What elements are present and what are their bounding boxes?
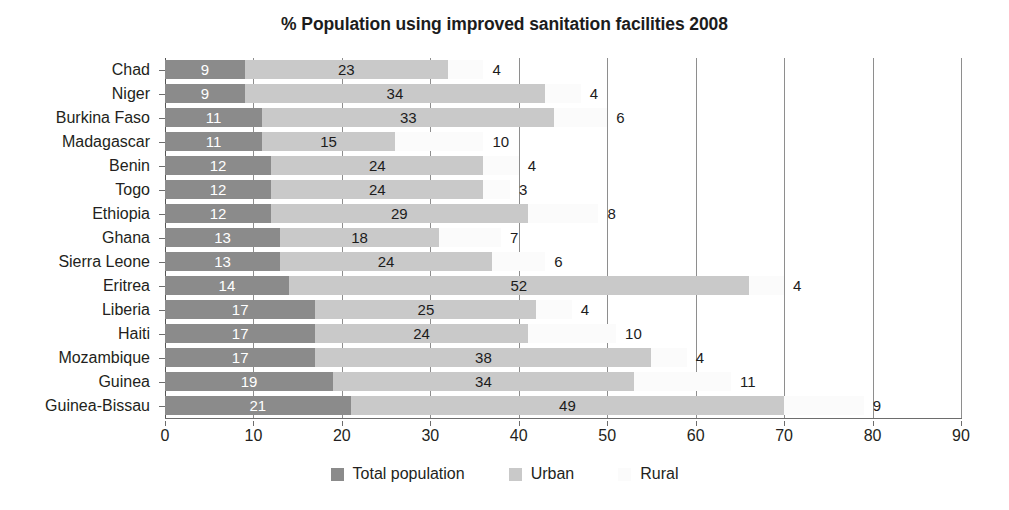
bar-segment-rural: [545, 84, 580, 103]
bar-segment-rural: [492, 252, 545, 271]
y-axis-label-eritrea: Eritrea: [103, 274, 150, 298]
gridline-90: [961, 58, 962, 418]
bar-row: 9234: [165, 58, 961, 82]
value-label-total-population: 13: [214, 252, 231, 271]
y-axis-label-ghana: Ghana: [102, 226, 150, 250]
legend-label: Total population: [353, 465, 465, 483]
value-label-urban: 34: [387, 84, 404, 103]
value-label-rural: 10: [625, 324, 642, 343]
bar-segment-rural: [536, 300, 571, 319]
x-axis-tick-90: [961, 421, 962, 426]
y-axis-label-chad: Chad: [112, 58, 150, 82]
y-axis-label-guinea-bissau: Guinea-Bissau: [45, 394, 150, 418]
bar-segment-rural: [528, 324, 616, 343]
value-label-total-population: 19: [241, 372, 258, 391]
value-label-rural: 9: [873, 396, 881, 415]
value-label-urban: 29: [391, 204, 408, 223]
value-label-total-population: 9: [201, 60, 209, 79]
value-label-rural: 11: [740, 372, 756, 391]
bar-row: 172410: [165, 322, 961, 346]
x-axis-labels: 0102030405060708090: [0, 421, 1009, 449]
bar-segment-rural: [395, 132, 483, 151]
y-axis-label-ethiopia: Ethiopia: [92, 202, 150, 226]
x-axis-label-50: 50: [577, 427, 637, 445]
value-label-total-population: 14: [219, 276, 236, 295]
value-label-urban: 33: [400, 108, 417, 127]
chart-title: % Population using improved sanitation f…: [0, 14, 1009, 35]
y-axis-label-benin: Benin: [109, 154, 150, 178]
value-label-urban: 25: [418, 300, 435, 319]
y-axis-label-togo: Togo: [115, 178, 150, 202]
value-label-total-population: 13: [214, 228, 231, 247]
legend-item: Total population: [331, 465, 465, 483]
value-label-total-population: 9: [201, 84, 209, 103]
x-axis-line: [165, 418, 962, 419]
legend-swatch-icon: [509, 468, 522, 481]
legend-label: Rural: [640, 465, 678, 483]
value-label-urban: 24: [378, 252, 395, 271]
bar-row: 12243: [165, 178, 961, 202]
value-label-urban: 23: [338, 60, 355, 79]
x-axis-tick-60: [696, 421, 697, 426]
value-label-total-population: 17: [232, 300, 249, 319]
bar-row: 17384: [165, 346, 961, 370]
value-label-rural: 7: [510, 228, 518, 247]
value-label-total-population: 11: [206, 108, 222, 127]
legend-swatch-icon: [331, 468, 344, 481]
value-label-rural: 4: [590, 84, 598, 103]
x-axis-tick-0: [165, 421, 166, 426]
value-label-rural: 3: [519, 180, 527, 199]
x-axis-label-70: 70: [754, 427, 814, 445]
value-label-urban: 24: [369, 156, 386, 175]
y-axis-label-madagascar: Madagascar: [62, 130, 150, 154]
bar-segment-rural: [448, 60, 483, 79]
bar-segment-rural: [634, 372, 731, 391]
y-axis-label-mozambique: Mozambique: [58, 346, 150, 370]
value-label-total-population: 12: [210, 204, 227, 223]
chart-legend: Total populationUrbanRural: [0, 461, 1009, 487]
x-axis-label-80: 80: [843, 427, 903, 445]
bar-segment-rural: [749, 276, 784, 295]
value-label-total-population: 12: [210, 156, 227, 175]
value-label-total-population: 17: [232, 348, 249, 367]
value-label-rural: 6: [554, 252, 562, 271]
bar-segment-rural: [651, 348, 686, 367]
plot-area: 9234934411336111510122441224312298131871…: [165, 58, 961, 418]
x-axis-label-40: 40: [489, 427, 549, 445]
bar-row: 9344: [165, 82, 961, 106]
value-label-total-population: 17: [232, 324, 249, 343]
x-axis-tick-80: [873, 421, 874, 426]
x-axis-tick-70: [784, 421, 785, 426]
bar-segment-rural: [784, 396, 864, 415]
x-axis-tick-50: [607, 421, 608, 426]
value-label-total-population: 12: [210, 180, 227, 199]
bar-row: 12244: [165, 154, 961, 178]
legend-item: Urban: [509, 465, 575, 483]
y-axis-label-burkina-faso: Burkina Faso: [56, 106, 150, 130]
x-axis-tick-20: [342, 421, 343, 426]
y-axis-label-sierra-leone: Sierra Leone: [58, 250, 150, 274]
bar-segment-rural: [554, 108, 607, 127]
x-axis-label-0: 0: [135, 427, 195, 445]
value-label-rural: 4: [696, 348, 704, 367]
bar-segment-rural: [439, 228, 501, 247]
x-axis-tick-40: [519, 421, 520, 426]
value-label-urban: 24: [369, 180, 386, 199]
value-label-urban: 34: [475, 372, 492, 391]
bar-segment-rural: [483, 180, 510, 199]
bar-segment-rural: [528, 204, 599, 223]
value-label-urban: 38: [475, 348, 492, 367]
bar-row: 13246: [165, 250, 961, 274]
y-axis-label-niger: Niger: [112, 82, 150, 106]
legend-label: Urban: [531, 465, 575, 483]
bar-row: 13187: [165, 226, 961, 250]
value-label-urban: 15: [320, 132, 337, 151]
y-axis-labels: ChadNigerBurkina FasoMadagascarBeninTogo…: [0, 58, 160, 418]
bar-row: 111510: [165, 130, 961, 154]
value-label-urban: 18: [351, 228, 368, 247]
sanitation-bar-chart: % Population using improved sanitation f…: [0, 0, 1009, 510]
value-label-rural: 4: [793, 276, 801, 295]
value-label-rural: 6: [616, 108, 624, 127]
value-label-rural: 10: [492, 132, 509, 151]
y-axis-label-guinea: Guinea: [98, 370, 150, 394]
